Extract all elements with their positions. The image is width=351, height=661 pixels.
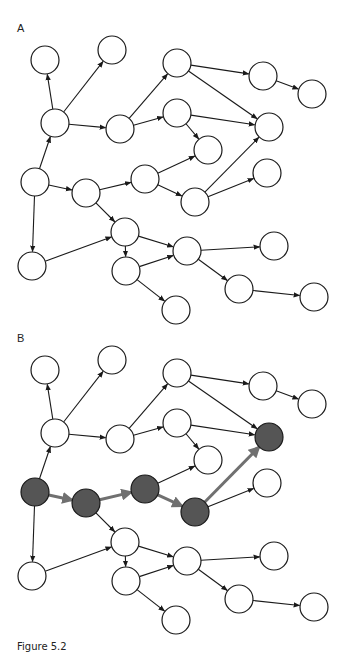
edge-arrow: [33, 506, 35, 562]
edge-arrow: [198, 569, 227, 590]
edge-arrow: [186, 434, 199, 449]
edge-arrow: [191, 115, 255, 125]
graph-node: [225, 585, 253, 613]
graph-node: [106, 115, 134, 143]
graph-node: [181, 188, 209, 216]
graph-node: [162, 296, 190, 324]
graph-node: [253, 469, 281, 497]
graph-node: [298, 390, 326, 418]
edge-arrow: [276, 391, 298, 399]
graph-node: [112, 567, 140, 595]
graph-panel-b: [18, 346, 328, 634]
graph-node: [249, 62, 277, 90]
edge-arrow: [45, 547, 111, 571]
edge-arrow: [137, 280, 165, 301]
figure-caption: Figure 5.2: [17, 641, 67, 652]
edge-arrow: [139, 566, 173, 577]
edge-arrow: [191, 375, 249, 384]
graph-node: [21, 168, 49, 196]
graph-node: [31, 356, 59, 384]
edge-arrow: [139, 256, 173, 267]
edge-arrow: [69, 434, 106, 437]
edge-arrow: [138, 236, 173, 247]
graph-node: [41, 419, 69, 447]
edge-arrow: [158, 156, 195, 173]
highlighted-edge-arrow: [100, 492, 131, 499]
graph-node: [255, 113, 283, 141]
graph-node: [112, 257, 140, 285]
edge-arrow: [188, 381, 257, 429]
edge-arrow: [39, 447, 50, 479]
edge-arrow: [201, 247, 260, 250]
edge-arrow: [47, 74, 53, 109]
network-diagram: [0, 0, 351, 661]
graph-node: [131, 165, 159, 193]
edge-arrow: [158, 185, 182, 196]
edge-arrow: [64, 371, 103, 422]
edge-arrow: [138, 546, 173, 557]
edge-arrow: [137, 590, 165, 611]
graph-node: [98, 346, 126, 374]
edge-arrow: [253, 290, 300, 295]
edge-arrow: [158, 466, 195, 483]
edge-arrow: [47, 384, 53, 419]
edge-arrow: [133, 117, 163, 125]
graph-node: [173, 237, 201, 265]
graph-node: [111, 528, 139, 556]
graph-node: [260, 542, 288, 570]
highlighted-node: [181, 498, 209, 526]
highlighted-node: [21, 478, 49, 506]
edge-arrow: [129, 74, 167, 118]
graph-node: [163, 359, 191, 387]
graph-node: [111, 218, 139, 246]
edge-arrow: [186, 124, 199, 139]
edge-arrow: [133, 427, 163, 435]
graph-node: [194, 136, 222, 164]
graph-node: [194, 446, 222, 474]
edge-arrow: [64, 61, 103, 112]
graph-node: [249, 372, 277, 400]
graph-node: [18, 562, 46, 590]
edge-arrow: [129, 384, 167, 428]
highlighted-edge-arrow: [158, 495, 182, 506]
graph-node: [31, 46, 59, 74]
graph-node: [300, 283, 328, 311]
edge-arrow: [33, 196, 35, 252]
highlighted-node: [131, 475, 159, 503]
graph-node: [300, 593, 328, 621]
graph-node: [162, 606, 190, 634]
edge-arrow: [253, 600, 300, 605]
edge-arrow: [96, 203, 115, 222]
edge-arrow: [39, 137, 50, 169]
graph-node: [72, 179, 100, 207]
edge-arrow: [96, 513, 115, 532]
graph-node: [163, 99, 191, 127]
edge-arrow: [276, 81, 298, 89]
graph-node: [106, 425, 134, 453]
edge-arrow: [198, 259, 227, 280]
graph-node: [98, 36, 126, 64]
edge-arrow: [191, 425, 255, 435]
edge-arrow: [100, 182, 131, 189]
highlighted-node: [255, 423, 283, 451]
graph-node: [41, 109, 69, 137]
highlighted-node: [72, 489, 100, 517]
edge-arrow: [45, 237, 111, 261]
graph-node: [298, 80, 326, 108]
graph-node: [260, 232, 288, 260]
graph-node: [225, 275, 253, 303]
graph-node: [163, 409, 191, 437]
edge-arrow: [201, 557, 260, 560]
edge-arrow: [191, 65, 249, 74]
graph-panel-a: [18, 36, 328, 324]
highlighted-edge-arrow: [49, 495, 72, 500]
graph-node: [173, 547, 201, 575]
graph-node: [163, 49, 191, 77]
edge-arrow: [69, 124, 106, 127]
graph-node: [253, 159, 281, 187]
edge-arrow: [188, 71, 257, 119]
graph-node: [18, 252, 46, 280]
edge-arrow: [49, 185, 72, 190]
